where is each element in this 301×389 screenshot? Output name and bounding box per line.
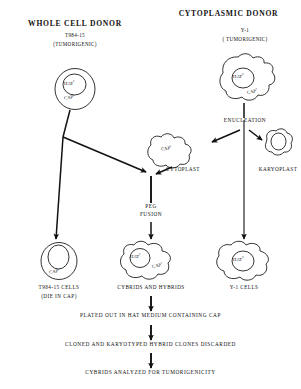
cytoplast-drawing	[148, 134, 191, 168]
label-cytoplast: CYTOPLAST	[148, 167, 218, 172]
result-cell-center-drawing	[120, 241, 170, 279]
step-peg-fusion-line2: FUSION	[121, 212, 181, 218]
karyoplast-drawing	[265, 129, 292, 155]
result-left-label-line2: (DIE IN CAP)	[14, 294, 104, 299]
header-whole-cell-donor: WHOLE CELL DONOR	[0, 20, 150, 28]
hat-marker-superscript: r	[139, 252, 140, 256]
step-enucleation: ENUCLEATION	[205, 118, 285, 124]
donor-cell-left-drawing	[55, 69, 95, 110]
flowchart-vector-layer	[0, 0, 301, 389]
label-karyoplast: KARYOPLAST	[248, 167, 301, 172]
flow-step-plating: PLATED OUT IN HAT MEDIUM CONTAINING CAP	[0, 313, 301, 319]
hat-marker-text: HAT	[233, 74, 242, 79]
hat-marker-superscript: s	[242, 255, 243, 259]
result-center-nucleus-marker: HATr	[130, 254, 140, 259]
result-right-label: Y-1 CELLS	[210, 285, 278, 290]
donor-left-cell-line: T984-15	[16, 33, 134, 38]
result-right-nucleus-marker: HATs	[233, 257, 244, 262]
step-peg-fusion-line1: PEG	[121, 204, 181, 210]
cytoplast-marker: CAPr	[161, 145, 172, 151]
figure-canvas: WHOLE CELL DONOR CYTOPLASMIC DONOR T984-…	[0, 0, 301, 389]
hat-marker-superscript: r	[73, 79, 74, 83]
result-left-label-line1: T984-15 CELLS	[14, 285, 104, 290]
flow-step-cloning: CLONED AND KARYOTYPED HYBRID CLONES DISC…	[0, 342, 301, 348]
hat-marker-text: HAT	[130, 254, 139, 259]
hat-marker-text: HAT	[233, 257, 242, 262]
donor-right-trait: ( TUMORIGENIC)	[186, 37, 301, 42]
header-cytoplasmic-donor: CYTOPLASMIC DONOR	[156, 10, 301, 18]
donor-right-nucleus-marker: HATs	[233, 74, 244, 79]
result-cell-left-drawing	[41, 243, 77, 280]
result-center-label: CYBRIDS AND HYBRIDS	[100, 285, 202, 290]
donor-left-trait: (TUMORIGENIC)	[16, 42, 134, 47]
hat-marker-superscript: s	[242, 72, 243, 76]
cap-marker-superscript: s	[73, 93, 75, 97]
cap-marker-superscript: s	[58, 267, 60, 271]
donor-right-cell-line: Y-1	[186, 28, 301, 33]
hat-marker-text: HAT	[64, 81, 73, 86]
donor-left-nucleus-marker: HATr	[64, 81, 74, 86]
flow-step-analysis: CYBRIDS ANALYZED FOR TUMORIGENICITY	[0, 370, 301, 376]
